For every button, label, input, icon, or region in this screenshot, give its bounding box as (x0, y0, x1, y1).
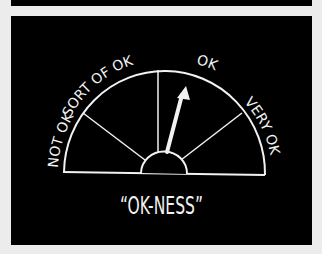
label-ok: OK (195, 51, 221, 73)
gauge-hub (141, 152, 187, 174)
spoke-right (181, 113, 242, 160)
needle (167, 95, 182, 152)
label-sort-of-ok: SORT OF OK (59, 52, 136, 120)
gauge-caption: “OK-NESS” (53, 192, 270, 220)
spoke-left (83, 113, 145, 160)
needle-arrowhead-icon (177, 86, 190, 100)
